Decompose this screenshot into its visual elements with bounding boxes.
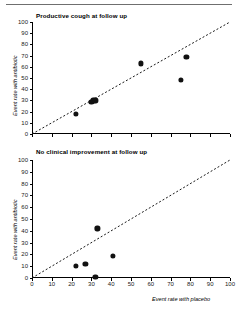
y-tick-mark <box>30 266 33 267</box>
x-tick-mark <box>131 134 132 137</box>
panel-title-bottom: No clinical improvement at follow up <box>36 148 147 155</box>
y-tick-label: 0 <box>25 275 28 281</box>
y-tick-mark <box>30 243 33 244</box>
y-tick-mark <box>30 195 33 196</box>
y-tick-mark <box>30 184 33 185</box>
y-tick-label: 10 <box>21 120 28 126</box>
y-tick-label: 70 <box>21 53 28 59</box>
y-tick-label: 20 <box>21 251 28 257</box>
line-of-equality-bottom <box>32 160 230 278</box>
x-tick-label: 60 <box>147 281 154 287</box>
x-tick-mark <box>171 134 172 137</box>
x-tick-label: 0 <box>30 281 33 287</box>
scatter-point <box>93 274 98 279</box>
y-tick-label: 50 <box>21 216 28 222</box>
x-tick-label: 70 <box>167 281 174 287</box>
y-tick-mark <box>30 219 33 220</box>
x-tick-mark <box>151 134 152 137</box>
x-axis-title: Event rate with placebo <box>152 296 210 302</box>
y-tick-label: 60 <box>21 204 28 210</box>
y-tick-mark <box>30 231 33 232</box>
y-tick-label: 80 <box>21 41 28 47</box>
y-tick-mark <box>30 78 33 79</box>
y-tick-mark <box>30 67 33 68</box>
x-tick-mark <box>230 134 231 137</box>
figure-container: Productive cough at follow up Event rate… <box>0 0 238 310</box>
line-of-equality-top <box>32 22 230 134</box>
y-tick-label: 60 <box>21 64 28 70</box>
y-tick-mark <box>30 100 33 101</box>
y-tick-mark <box>30 56 33 57</box>
y-tick-label: 100 <box>18 157 28 163</box>
y-tick-label: 80 <box>21 181 28 187</box>
x-tick-label: 80 <box>187 281 194 287</box>
x-tick-label: 50 <box>128 281 135 287</box>
x-tick-label: 40 <box>108 281 115 287</box>
chart-panel-no-clinical-improvement: No clinical improvement at follow up Eve… <box>0 146 238 296</box>
x-tick-mark <box>52 134 53 137</box>
x-tick-label: 100 <box>225 281 235 287</box>
x-tick-label: 10 <box>48 281 55 287</box>
x-tick-mark <box>91 134 92 137</box>
x-tick-label: 30 <box>88 281 95 287</box>
y-tick-label: 0 <box>25 131 28 137</box>
y-tick-label: 30 <box>21 240 28 246</box>
y-tick-label: 40 <box>21 228 28 234</box>
y-tick-label: 70 <box>21 192 28 198</box>
x-tick-mark <box>111 134 112 137</box>
x-tick-mark <box>190 134 191 137</box>
x-tick-mark <box>72 134 73 137</box>
y-tick-label: 30 <box>21 97 28 103</box>
y-tick-label: 40 <box>21 86 28 92</box>
x-tick-mark <box>32 134 33 137</box>
y-tick-mark <box>30 254 33 255</box>
y-tick-label: 90 <box>21 169 28 175</box>
y-tick-label: 100 <box>18 19 28 25</box>
panel-title-top: Productive cough at follow up <box>36 12 127 19</box>
y-tick-mark <box>30 207 33 208</box>
y-tick-mark <box>30 172 33 173</box>
x-tick-mark <box>210 134 211 137</box>
y-tick-mark <box>30 22 33 23</box>
plot-area-top: 0102030405060708090100 01020304050607080… <box>32 22 230 134</box>
y-axis-title-top: Event rate with antibiotic <box>12 55 18 116</box>
y-tick-mark <box>30 123 33 124</box>
y-tick-label: 20 <box>21 109 28 115</box>
y-axis-title-bottom: Event rate with antibiotic <box>12 199 18 260</box>
y-tick-mark <box>30 89 33 90</box>
y-tick-label: 50 <box>21 75 28 81</box>
y-tick-mark <box>30 33 33 34</box>
y-tick-mark <box>30 112 33 113</box>
plot-area-bottom: 0102030405060708090100 01020304050607080… <box>32 160 230 278</box>
y-tick-mark <box>30 44 33 45</box>
x-tick-label: 90 <box>207 281 214 287</box>
y-tick-label: 90 <box>21 30 28 36</box>
x-tick-label: 20 <box>68 281 75 287</box>
chart-panel-productive-cough: Productive cough at follow up Event rate… <box>0 12 238 146</box>
top-divider-rule <box>6 4 232 5</box>
y-tick-label: 10 <box>21 263 28 269</box>
y-tick-mark <box>30 160 33 161</box>
